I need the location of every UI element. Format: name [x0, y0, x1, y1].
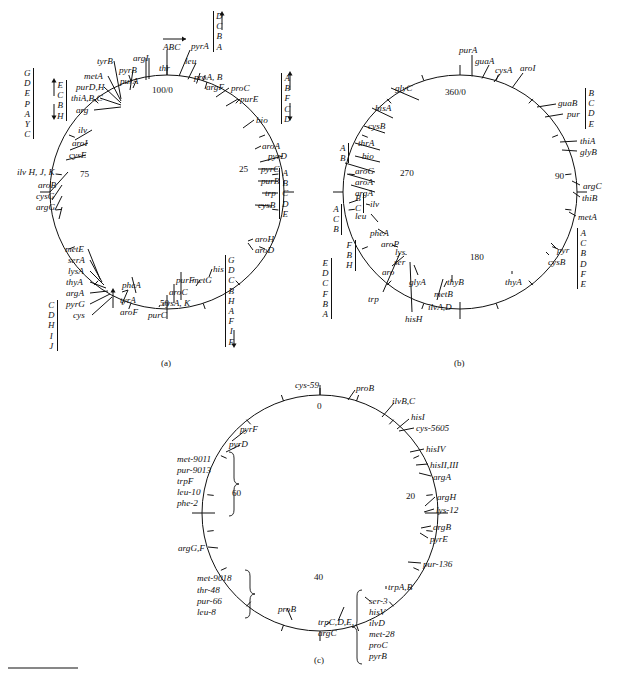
- operon-letter: C: [216, 21, 223, 31]
- operon-letter: A: [340, 143, 346, 153]
- col-pur-right: BCDE: [585, 88, 595, 129]
- gene-label: proB: [356, 384, 374, 393]
- gene-label: hisH: [405, 315, 422, 324]
- operon-letter: D: [228, 265, 235, 275]
- operon-letter: F: [228, 316, 235, 326]
- gene-label: ilvD: [369, 619, 385, 628]
- operon-letter: E: [580, 279, 587, 289]
- gene-label: leu-8: [197, 608, 216, 617]
- operon-letter: D: [588, 108, 595, 118]
- gene-label: aro: [382, 268, 394, 277]
- gene-label: aroC: [169, 288, 188, 297]
- operon-letter: A: [282, 168, 289, 178]
- gene-label: pur-136: [423, 560, 452, 569]
- col-trp-right: ABCDE: [279, 168, 289, 219]
- gene-label: metA: [578, 213, 597, 222]
- gene-label: hisII,III: [430, 461, 458, 470]
- operon-letter: C: [24, 129, 31, 139]
- gene-label: pheA: [122, 281, 141, 290]
- gene-label: trp: [265, 189, 276, 198]
- gene-label: aroI: [72, 139, 87, 148]
- gene-label: argA: [433, 473, 451, 482]
- operon-letter: C: [333, 214, 339, 224]
- gene-label: ilvA,D: [428, 303, 452, 312]
- gene-label: purE: [240, 95, 258, 104]
- gene-label: cysG: [36, 192, 54, 201]
- operon-letter: Y: [24, 119, 31, 129]
- gene-label: hisV: [369, 608, 385, 617]
- gene-label: thyB: [447, 278, 464, 287]
- operon-letter: C: [284, 104, 291, 114]
- operon-letter: E: [282, 209, 289, 219]
- gene-label: metB: [434, 290, 453, 299]
- col-pyr-right: ACBDFE: [577, 228, 587, 289]
- operon-letter: B: [580, 248, 587, 258]
- gene-label: ilv: [78, 126, 87, 135]
- gene-label: cysB: [368, 122, 385, 131]
- gene-label: met-28: [369, 630, 395, 639]
- gene-label: serA: [68, 256, 85, 265]
- gene-label: lys-12: [436, 506, 458, 515]
- gene-label: pyr: [557, 246, 569, 255]
- gene-label: metG: [192, 276, 212, 285]
- gene-label: aroA: [262, 142, 280, 151]
- gene-label: hisA: [375, 104, 391, 113]
- gene-label: leu-10: [177, 488, 200, 497]
- gene-label: met-9018: [197, 574, 232, 583]
- gene-label: cysB: [548, 258, 565, 267]
- operon-letter: E: [24, 88, 31, 98]
- operon-letter: B: [282, 178, 289, 188]
- gene-label: ser: [394, 258, 405, 267]
- col-cys-lower-left: CDHIJ: [48, 300, 58, 351]
- gene-label: ilvB,C: [392, 397, 415, 406]
- gene-label: 75: [80, 170, 89, 179]
- operon-letter: D: [282, 199, 289, 209]
- operon-letter: D: [216, 11, 223, 21]
- operon-letter: D: [24, 78, 31, 88]
- gene-label: aroA: [355, 178, 373, 187]
- gene-label: purF: [176, 276, 194, 285]
- gene-label: ABC: [163, 43, 180, 52]
- gene-label: aroG: [355, 167, 374, 176]
- operon-letter: B: [355, 193, 361, 203]
- gene-label: pur-66: [197, 597, 222, 606]
- map-a-abc-arrow: [163, 37, 186, 42]
- gene-label: pyrD: [229, 440, 248, 449]
- gene-label: proA, B: [194, 73, 222, 82]
- col-leu-left: ACB: [333, 204, 342, 235]
- gene-label: pyrA: [191, 42, 209, 51]
- gene-label: argC: [318, 629, 337, 638]
- operon-letter: E: [57, 80, 64, 90]
- panel-caption-a: (a): [161, 358, 171, 368]
- gene-label: cysA: [495, 66, 512, 75]
- operon-letter: A: [228, 306, 235, 316]
- gene-label: 360/0: [445, 88, 466, 97]
- gene-label: thiA,B,C: [71, 94, 103, 103]
- gene-label: ilv: [370, 200, 379, 209]
- gene-label: pyrC: [261, 165, 279, 174]
- gene-label: argG: [36, 203, 55, 212]
- operon-letter: D: [322, 268, 329, 278]
- gene-label: argI: [133, 54, 148, 63]
- gene-label: hisIV: [426, 445, 445, 454]
- gene-label: argC: [583, 182, 602, 191]
- operon-letter: B: [228, 286, 235, 296]
- gene-label: ser-3: [369, 597, 388, 606]
- operon-letter: G: [228, 255, 235, 265]
- operon-letter: H: [57, 111, 64, 121]
- gene-label: cysE: [69, 151, 86, 160]
- gene-label: pyrG: [66, 300, 85, 309]
- operon-letter: A: [216, 42, 223, 52]
- operon-letter: E: [228, 337, 235, 347]
- gene-label: proC: [369, 641, 388, 650]
- gene-label: thrA: [358, 139, 374, 148]
- operon-letter: J: [48, 341, 55, 351]
- operon-letter: A: [284, 73, 291, 83]
- gene-label: guaB: [558, 99, 577, 108]
- operon-letter: F: [322, 289, 329, 299]
- gene-label: 90: [555, 172, 564, 181]
- gene-label: aroI: [520, 64, 535, 73]
- operon-letter: D: [580, 259, 587, 269]
- gene-label: glyB: [580, 148, 597, 157]
- gene-label: pyrB: [119, 66, 137, 75]
